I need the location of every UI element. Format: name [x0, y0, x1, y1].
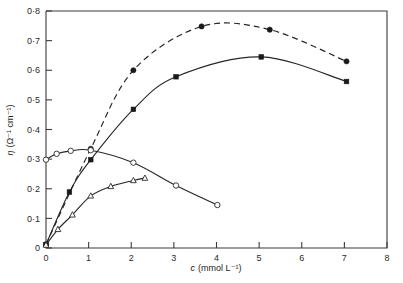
y-ticklabel: 0·3 — [27, 154, 40, 164]
x-axis-ticklabels: 012345678 — [43, 253, 389, 263]
marker-point — [131, 160, 136, 165]
marker-point — [131, 68, 136, 73]
x-ticklabel: 8 — [384, 253, 389, 263]
marker-point — [68, 148, 73, 153]
y-ticklabel: 0·2 — [27, 184, 40, 194]
y-ticklabel: 0·4 — [27, 125, 40, 135]
chart-canvas: 00·10·20·30·40·50·60·70·8 012345678 c(mm… — [0, 0, 403, 283]
series-open-triangle-solid — [43, 175, 148, 247]
y-axis-ticks — [46, 11, 52, 248]
y-ticklabel: 0 — [35, 243, 40, 253]
y-ticklabel: 0·5 — [27, 95, 40, 105]
marker-point — [344, 59, 349, 64]
x-axis-title-units: (mmol L⁻¹) — [198, 263, 242, 273]
marker-point — [259, 55, 264, 60]
x-ticklabel: 6 — [299, 253, 304, 263]
x-axis-title-symbol: c — [191, 263, 196, 273]
marker-point — [88, 148, 93, 153]
figure-container: 00·10·20·30·40·50·60·70·8 012345678 c(mm… — [0, 0, 403, 283]
y-axis-ticklabels: 00·10·20·30·40·50·60·70·8 — [27, 6, 40, 253]
marker-point — [43, 157, 48, 162]
x-axis-title: c(mmol L⁻¹) — [191, 263, 242, 273]
y-axis-title-symbol: η — [5, 151, 15, 156]
plot-frame — [46, 11, 387, 248]
marker-point — [215, 202, 220, 207]
x-ticklabel: 1 — [86, 253, 91, 263]
marker-point — [267, 27, 272, 32]
y-axis-title-units: (Ω⁻¹ cm⁻¹) — [5, 104, 15, 147]
y-axis-title: η(Ω⁻¹ cm⁻¹) — [5, 104, 15, 155]
series-filled-circle-dashed — [43, 23, 349, 247]
x-ticklabel: 0 — [43, 253, 48, 263]
series-open-circle-solid — [43, 148, 220, 208]
svg-text:c(mmol L⁻¹): c(mmol L⁻¹) — [191, 263, 242, 273]
marker-point — [199, 24, 204, 29]
x-ticklabel: 3 — [171, 253, 176, 263]
marker-point — [344, 79, 349, 84]
x-axis-ticks — [46, 242, 387, 248]
series-line-filled-circle-dashed — [46, 23, 347, 245]
y-ticklabel: 0·7 — [27, 36, 40, 46]
series-line-open-circle-solid — [46, 149, 217, 205]
x-ticklabel: 7 — [342, 253, 347, 263]
marker-point — [67, 190, 72, 195]
y-ticklabel: 0·8 — [27, 6, 40, 16]
y-ticklabel: 0·1 — [27, 214, 40, 224]
marker-point — [174, 74, 179, 79]
axis-frame-lines — [46, 11, 387, 248]
marker-point — [54, 151, 59, 156]
marker-point — [142, 175, 148, 180]
marker-point — [131, 107, 136, 112]
x-ticklabel: 5 — [257, 253, 262, 263]
marker-point — [88, 157, 93, 162]
marker-point — [88, 193, 94, 198]
x-ticklabel: 4 — [214, 253, 219, 263]
svg-text:η(Ω⁻¹ cm⁻¹): η(Ω⁻¹ cm⁻¹) — [5, 104, 15, 155]
data-series-group — [43, 23, 349, 247]
marker-point — [173, 183, 178, 188]
x-ticklabel: 2 — [129, 253, 134, 263]
y-ticklabel: 0·6 — [27, 65, 40, 75]
